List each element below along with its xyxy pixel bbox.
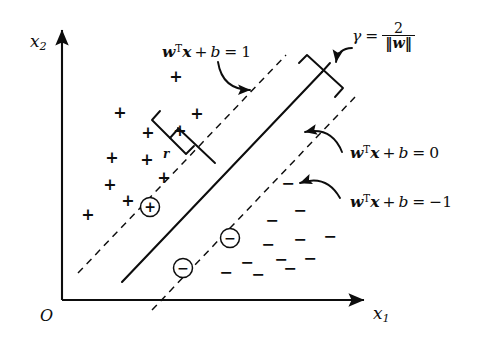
positive-point-mark: + [105,148,118,167]
arrow-to-margin-plus-line [218,62,250,90]
negative-point-mark: − [293,230,306,249]
negative-point-mark: − [323,227,336,246]
mp-b: b [210,43,220,61]
b0-eq: = [412,144,425,162]
negative-point-mark: − [303,249,316,268]
b0-b: b [398,144,408,162]
mp-plus: + [194,43,207,61]
arrow-to-boundary-line [305,131,342,152]
mm-b: b [398,193,408,211]
hyperplane-lines [78,55,355,310]
x-axis-label: x1 [373,305,390,324]
mm-plus: + [382,193,395,211]
r-distance-label: r [163,148,169,160]
negative-point-mark: − [293,201,306,220]
positive-point-mark: + [140,150,153,169]
margin-minus-equation-label: wTx+b=−1 [350,194,452,211]
mp-x: x [182,42,191,61]
support-vector-negative-symbol: − [224,230,236,246]
positive-point-mark: + [121,191,134,210]
positive-point-mark: + [103,175,116,194]
data-point-marks: +++++++++++−−−−−−−−−−−− [81,67,336,284]
arrow-gamma-tick [336,48,352,62]
negative-point-mark: − [219,263,232,282]
mp-w: w [162,42,175,61]
positive-point-mark: + [81,205,94,224]
gamma-symbol: γ [352,27,361,45]
negative-point-mark: − [251,265,264,284]
negative-point-mark: − [283,259,296,278]
b0-plus: + [382,144,395,162]
x-axis-label-sub: 1 [383,312,390,325]
y-axis-label-sub: 2 [40,40,47,53]
negative-point-mark: − [261,235,274,254]
mm-x: x [370,192,379,211]
gamma-denominator: ‖w‖ [382,35,415,50]
positive-point-mark: + [173,121,186,140]
gamma-numerator: 2 [382,21,415,35]
positive-point-mark: + [169,67,182,86]
b0-x: x [370,143,379,162]
gamma-fraction: 2 ‖w‖ [382,21,415,51]
b0-value: 0 [429,144,439,162]
positive-point-mark: + [113,103,126,122]
arrow-to-margin-minus-line [300,180,340,198]
mp-eq: = [224,43,237,61]
negative-point-mark: − [265,211,278,230]
y-axis-label-var: x [30,31,40,51]
mm-value: −1 [429,193,452,211]
gamma-equation-label: γ= 2 ‖w‖ [352,22,415,52]
negative-point-mark: − [281,174,294,193]
mm-w: w [350,192,363,211]
gamma-eq: = [365,27,378,45]
y-axis-label: x2 [30,33,47,52]
x-axis-label-var: x [373,303,383,323]
positive-point-mark: + [157,168,170,187]
origin-label: O [40,308,53,324]
support-vector-negative-symbol: − [177,260,189,276]
support-vector-positive-symbol: + [144,199,156,215]
b0-w: w [350,143,363,162]
positive-point-mark: + [190,104,203,123]
positive-point-mark: + [141,123,154,142]
margin-plus-equation-label: wTx+b=1 [162,44,251,61]
mp-value: 1 [241,43,251,61]
mm-eq: = [412,193,425,211]
boundary-equation-label: wTx+b=0 [350,145,439,162]
